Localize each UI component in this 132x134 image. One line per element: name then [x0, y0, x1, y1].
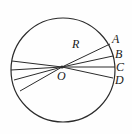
radii-right-group [62, 44, 115, 78]
label-point-c: C [116, 61, 124, 73]
radius-to-a [62, 44, 110, 67]
figure-canvas [0, 0, 132, 134]
label-radius-r: R [72, 38, 79, 50]
label-point-d: D [115, 74, 124, 86]
radius-left-4 [20, 67, 62, 91]
label-point-b: B [115, 48, 122, 60]
radius-to-b [62, 56, 113, 67]
geometry-figure: A B C D R O [0, 0, 132, 134]
label-point-a: A [112, 33, 119, 45]
radius-to-d [62, 67, 113, 78]
radius-left-1 [12, 61, 62, 67]
radii-left-group [11, 61, 62, 91]
label-center-o: O [57, 70, 66, 82]
